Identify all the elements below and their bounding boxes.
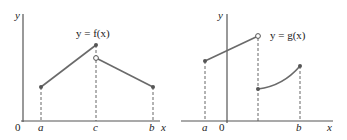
right-graph: y y = g(x) a 0 b x — [181, 9, 333, 133]
f-function-label: y = f(x) — [76, 27, 110, 40]
g-point-b — [298, 64, 302, 68]
left-tick-a: a — [38, 121, 44, 133]
g-segment-2 — [258, 66, 300, 89]
right-y-label: y — [217, 9, 223, 21]
g-segment-1 — [205, 37, 256, 61]
f-point-c-filled — [94, 43, 98, 47]
left-y-label: y — [14, 9, 20, 21]
f-point-c-open — [94, 56, 99, 61]
right-x-label: x — [326, 121, 332, 133]
right-tick-a: a — [202, 121, 208, 133]
left-graph: y y = f(x) 0 a c b x — [14, 9, 166, 133]
left-tick-b: b — [149, 121, 155, 133]
f-point-b — [151, 85, 155, 89]
f-segment-1 — [41, 45, 96, 87]
left-x-label: x — [160, 121, 166, 133]
right-origin-label: 0 — [219, 121, 225, 133]
left-origin-label: 0 — [15, 121, 21, 133]
g-function-label: y = g(x) — [270, 29, 306, 42]
f-point-a — [39, 85, 43, 89]
left-tick-c: c — [93, 121, 98, 133]
g-point-jump-filled — [256, 87, 260, 91]
right-tick-b: b — [296, 121, 302, 133]
g-point-a — [203, 59, 207, 63]
g-point-jump-open — [256, 34, 261, 39]
f-segment-2 — [98, 59, 153, 87]
figure: y y = f(x) 0 a c b x y y = g(x) a 0 b x — [0, 0, 347, 140]
